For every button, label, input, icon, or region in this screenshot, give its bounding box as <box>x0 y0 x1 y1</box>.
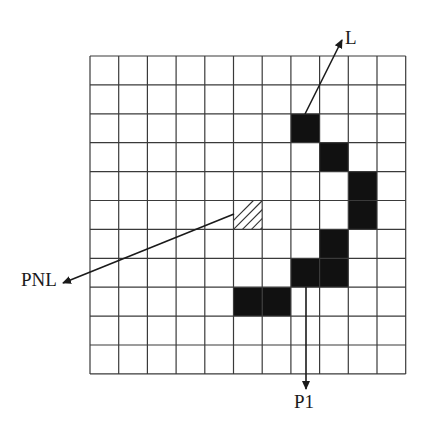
filled-cell <box>262 287 291 316</box>
arrow-pnl <box>63 214 234 283</box>
filled-cells <box>234 114 378 316</box>
label-L: L <box>345 28 357 47</box>
arrow-l <box>305 40 342 114</box>
hatched-cell <box>225 201 299 230</box>
filled-cell <box>320 258 349 287</box>
arrows <box>63 40 342 389</box>
filled-cell <box>320 143 349 172</box>
filled-cell <box>291 258 320 287</box>
filled-cell <box>348 201 377 230</box>
filled-cell <box>348 172 377 201</box>
label-P1: P1 <box>294 392 314 411</box>
pixel-grid-diagram <box>0 0 426 430</box>
filled-cell <box>320 229 349 258</box>
filled-cell <box>291 114 320 143</box>
label-PNL: PNL <box>21 270 57 289</box>
hatched-cells <box>225 201 299 230</box>
filled-cell <box>234 287 263 316</box>
